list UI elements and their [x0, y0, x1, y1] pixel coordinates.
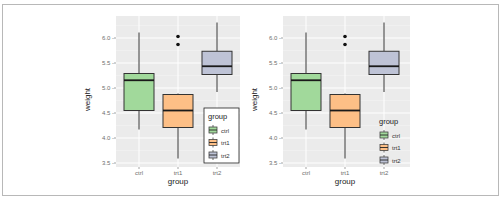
outlier-point — [343, 43, 347, 47]
legend-title: group — [208, 112, 227, 121]
boxplot-figure: 3.5 -4.0 -4.5 -5.0 -5.5 -6.0 -weightctrl… — [0, 0, 502, 201]
x-tick-label: trt1 — [341, 170, 350, 176]
legend-label: ctrl — [392, 133, 400, 139]
x-tick-label: ctrl — [135, 170, 143, 176]
y-tick-label: 3.5 - — [269, 160, 281, 166]
legend-label: trt2 — [392, 158, 401, 164]
legend-title: group — [379, 117, 398, 126]
x-axis-title: group — [168, 177, 189, 186]
y-tick-label: 4.0 - — [269, 135, 281, 141]
y-tick-label: 3.5 - — [102, 160, 114, 166]
y-tick-label: 4.5 - — [269, 110, 281, 116]
y-axis-title: weight — [83, 87, 92, 112]
outlier-point — [176, 43, 180, 47]
x-tick-label: ctrl — [302, 170, 310, 176]
y-tick-label: 5.0 - — [269, 85, 281, 91]
outlier-point — [343, 35, 347, 39]
y-tick-label: 4.0 - — [102, 135, 114, 141]
y-tick-label: 6.0 - — [102, 35, 114, 41]
plot-panel-left: 3.5 -4.0 -4.5 -5.0 -5.5 -6.0 -weightctrl… — [83, 16, 240, 186]
legend: groupctrltrt1trt2 — [204, 108, 239, 163]
y-axis-title: weight — [250, 87, 259, 112]
y-tick-label: 6.0 - — [269, 35, 281, 41]
y-tick-label: 4.5 - — [102, 110, 114, 116]
y-tick-label: 5.5 - — [102, 60, 114, 66]
x-tick-label: trt2 — [213, 170, 222, 176]
legend-label: ctrl — [221, 128, 229, 134]
outlier-point — [176, 35, 180, 39]
legend-label: trt1 — [392, 145, 401, 151]
y-tick-label: 5.0 - — [102, 85, 114, 91]
x-tick-label: trt2 — [380, 170, 389, 176]
y-tick-label: 5.5 - — [269, 60, 281, 66]
x-axis-title: group — [335, 177, 356, 186]
legend-label: trt1 — [221, 140, 230, 146]
x-tick-label: trt1 — [174, 170, 183, 176]
plot-panel-right: 3.5 -4.0 -4.5 -5.0 -5.5 -6.0 -weightctrl… — [250, 16, 410, 186]
legend-label: trt2 — [221, 153, 230, 159]
